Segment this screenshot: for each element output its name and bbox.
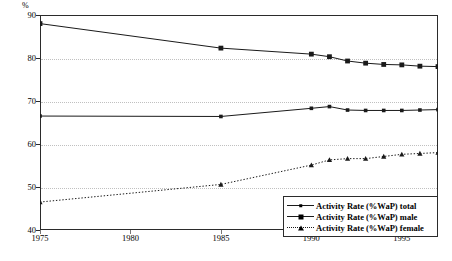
- legend-marker-large-square: [298, 214, 303, 219]
- series-line-0: [40, 107, 438, 117]
- x-tick-label-1980: 1980: [110, 234, 150, 243]
- legend-key-0: [287, 200, 314, 211]
- x-tick-label-1975: 1975: [20, 234, 60, 243]
- data-point: [418, 108, 422, 112]
- legend-marker-triangle: [298, 225, 304, 230]
- data-point: [40, 21, 42, 26]
- series-line-2: [40, 153, 438, 202]
- data-point: [219, 46, 224, 51]
- chart-legend: Activity Rate (%WaP) totalActivity Rate …: [283, 196, 438, 237]
- y-tick-label-50: 50: [2, 183, 36, 192]
- data-point: [399, 152, 404, 157]
- data-point: [400, 109, 404, 113]
- legend-item-0: Activity Rate (%WaP) total: [287, 200, 433, 211]
- data-point: [219, 115, 223, 119]
- legend-label-2: Activity Rate (%WaP) female: [314, 223, 424, 233]
- data-point: [310, 107, 314, 111]
- y-tick-label-90: 90: [2, 11, 36, 20]
- data-point: [436, 64, 438, 69]
- series-0: [40, 105, 438, 118]
- legend-label-0: Activity Rate (%WaP) total: [314, 201, 416, 211]
- data-point: [418, 64, 423, 69]
- y-tick-label-70: 70: [2, 97, 36, 106]
- series-1: [40, 21, 438, 69]
- y-axis-unit-label: %: [22, 2, 29, 10]
- legend-key-2: [287, 222, 314, 233]
- data-point: [345, 156, 350, 161]
- data-point: [399, 62, 404, 67]
- data-point: [345, 59, 350, 64]
- x-tick-mark-1975: [40, 230, 41, 234]
- legend-marker-small-square: [299, 204, 303, 208]
- series-line-1: [40, 24, 438, 67]
- legend-label-1: Activity Rate (%WaP) male: [314, 212, 417, 222]
- data-point: [327, 54, 332, 59]
- legend-key-1: [287, 211, 314, 222]
- y-tick-label-60: 60: [2, 140, 36, 149]
- x-tick-mark-1980: [130, 230, 131, 234]
- data-point: [346, 108, 350, 112]
- legend-item-2: Activity Rate (%WaP) female: [287, 222, 433, 233]
- x-tick-mark-1985: [221, 230, 222, 234]
- data-point: [40, 114, 42, 118]
- data-point: [364, 109, 368, 113]
- cropped-title-text: [60, 0, 400, 2]
- data-point: [382, 109, 386, 113]
- data-point: [40, 199, 43, 204]
- data-point: [309, 52, 314, 57]
- data-point: [436, 108, 438, 112]
- legend-item-1: Activity Rate (%WaP) male: [287, 211, 433, 222]
- data-point: [381, 62, 386, 67]
- data-point: [435, 150, 438, 155]
- chart-figure: % 405060708090 19751980198519901995 Acti…: [0, 0, 452, 261]
- data-point: [328, 105, 332, 109]
- x-tick-label-1985: 1985: [201, 234, 241, 243]
- y-tick-label-80: 80: [2, 54, 36, 63]
- data-point: [363, 61, 368, 66]
